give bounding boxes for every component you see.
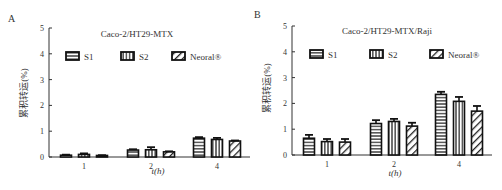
panel-label-a: A xyxy=(8,13,16,24)
bar-diagonal xyxy=(230,141,241,157)
y-tick-label: 2 xyxy=(283,99,287,108)
chart-title-b: Caco-2/HT29-MTX/Raji xyxy=(342,26,432,36)
bar-diagonal xyxy=(407,126,418,155)
y-tick-label: 2 xyxy=(40,101,44,110)
bar-horizontal xyxy=(304,138,315,155)
x-axis-label-b: t(h) xyxy=(389,168,402,178)
y-tick-label: 1 xyxy=(40,127,44,136)
legend-label: S2 xyxy=(139,52,149,62)
legend-label: Neoral® xyxy=(448,50,479,60)
x-tick-label: 4 xyxy=(215,162,219,171)
legend-swatch-vertical xyxy=(370,50,383,58)
legend-swatch-diagonal xyxy=(430,50,443,58)
legend-swatch-horizontal xyxy=(66,52,79,60)
legend-swatch-horizontal xyxy=(310,50,323,58)
bar-vertical xyxy=(322,142,333,155)
plot-area-a: 012345124S1S2Neoral® xyxy=(40,24,250,171)
bar-vertical xyxy=(389,121,400,155)
y-tick-label: 4 xyxy=(283,48,287,57)
x-axis-label-a: t(h) xyxy=(152,166,165,176)
bar-horizontal xyxy=(128,150,139,157)
chart-title-a: Caco-2/HT29-MTX xyxy=(101,29,174,39)
bar-vertical xyxy=(146,150,157,157)
bar-vertical xyxy=(454,101,465,155)
legend-label: S2 xyxy=(388,50,398,60)
x-tick-label: 1 xyxy=(325,160,329,169)
x-tick-label: 2 xyxy=(392,160,396,169)
x-tick-label: 2 xyxy=(149,162,153,171)
legend-swatch-diagonal xyxy=(172,52,185,60)
bar-horizontal xyxy=(371,124,382,155)
y-tick-label: 0 xyxy=(40,153,44,162)
legend-label: S1 xyxy=(84,52,94,62)
plot-area-b: 012345124S1S2Neoral® xyxy=(283,22,492,169)
legend-swatch-vertical xyxy=(121,52,134,60)
y-tick-label: 1 xyxy=(283,125,287,134)
x-tick-label: 4 xyxy=(457,160,461,169)
y-tick-label: 5 xyxy=(283,22,287,31)
bar-vertical xyxy=(79,154,90,157)
y-axis-label-b: 累积转运(%) xyxy=(261,63,272,113)
bar-diagonal xyxy=(340,142,351,155)
y-tick-label: 5 xyxy=(40,24,44,33)
y-tick-label: 4 xyxy=(40,50,44,59)
figure-canvas: A Caco-2/HT29-MTX t(h) 累积转运(%) 012345124… xyxy=(0,0,502,190)
bar-horizontal xyxy=(436,94,447,155)
bar-vertical xyxy=(212,139,223,157)
panel-a: A Caco-2/HT29-MTX t(h) 累积转运(%) 012345124… xyxy=(8,13,250,176)
panel-label-b: B xyxy=(254,9,261,20)
bar-diagonal xyxy=(164,152,175,157)
legend-label: S1 xyxy=(328,50,338,60)
legend-label: Neoral® xyxy=(190,52,221,62)
y-tick-label: 3 xyxy=(40,76,44,85)
panel-b: B Caco-2/HT29-MTX/Raji t(h) 累积转运(%) 0123… xyxy=(254,9,492,178)
x-tick-label: 1 xyxy=(82,162,86,171)
y-tick-label: 0 xyxy=(283,151,287,160)
bar-diagonal xyxy=(472,111,483,155)
y-axis-label-a: 累积转运(%) xyxy=(18,68,29,118)
y-tick-label: 3 xyxy=(283,74,287,83)
bar-horizontal xyxy=(194,138,205,157)
